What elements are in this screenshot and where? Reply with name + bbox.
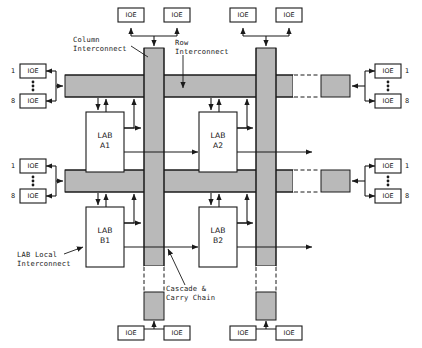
ioe-label-bottom-right-1: IOE <box>230 330 256 336</box>
channel-index-right-upper-first: 1 <box>405 68 409 75</box>
ioe-label-bottom-right-2: IOE <box>276 330 302 336</box>
lab-b1-label-line1: LAB <box>86 226 124 235</box>
ioe-label-top-right-2: IOE <box>276 12 302 18</box>
top-left-ioe-wiring <box>131 28 177 46</box>
right-upper-ioe-wiring <box>352 71 375 101</box>
lab-a2-label-line2: A2 <box>199 141 237 150</box>
column-interconnect-left <box>144 48 164 320</box>
lab-a2-label-line1: LAB <box>199 131 237 140</box>
lab-a1-label-line1: LAB <box>86 131 124 140</box>
row-interconnect-top <box>65 75 350 97</box>
annotation-lab-local-interconnect-line2: Interconnect <box>17 260 71 269</box>
ioe-label-right-upper-1: IOE <box>375 68 401 74</box>
ioe-label-bottom-left-2: IOE <box>164 330 190 336</box>
channel-index-left-lower-last: 8 <box>11 193 15 200</box>
lab-b1-label-line2: B1 <box>86 236 124 245</box>
top-right-ioe-wiring <box>243 28 289 46</box>
annotation-row-interconnect-line2: Interconnect <box>175 48 229 57</box>
row-interconnect-bottom <box>65 170 350 192</box>
annotation-cascade-carry-chain-line2: Carry Chain <box>166 294 215 303</box>
ellipsis-right-upper <box>387 81 390 92</box>
ioe-label-right-lower-8: IOE <box>375 193 401 199</box>
lab-b2-label-line1: LAB <box>199 226 237 235</box>
channel-index-left-upper-first: 1 <box>11 68 15 75</box>
leader-cascade-carry-chain <box>168 249 185 285</box>
fpga-interconnect-diagram: IOE IOE IOE IOE IOE IOE IOE IOE IOE IOE … <box>0 0 422 348</box>
ioe-label-left-lower-1: IOE <box>20 163 46 169</box>
ioe-label-left-upper-8: IOE <box>20 98 46 104</box>
left-lower-ioe-wiring <box>46 166 63 196</box>
right-lower-ioe-wiring <box>352 166 375 196</box>
column-interconnect-right <box>256 48 276 320</box>
ioe-label-top-left-1: IOE <box>118 12 144 18</box>
lab-b2-label-line2: B2 <box>199 236 237 245</box>
ioe-label-top-left-2: IOE <box>164 12 190 18</box>
annotation-column-interconnect-line2: Interconnect <box>73 45 127 54</box>
ellipsis-right-lower <box>387 176 390 187</box>
channel-index-left-lower-first: 1 <box>11 163 15 170</box>
channel-index-right-upper-last: 8 <box>405 98 409 105</box>
leader-lab-local-interconnect <box>64 247 83 254</box>
channel-index-right-lower-first: 1 <box>405 163 409 170</box>
ioe-label-bottom-left-1: IOE <box>118 330 144 336</box>
ellipsis-left-upper <box>32 81 35 92</box>
ioe-label-left-upper-1: IOE <box>20 68 46 74</box>
ioe-label-right-upper-8: IOE <box>375 98 401 104</box>
lab-a1-label-line2: A1 <box>86 141 124 150</box>
ioe-label-right-lower-1: IOE <box>375 163 401 169</box>
ioe-label-left-lower-8: IOE <box>20 193 46 199</box>
channel-index-right-lower-last: 8 <box>405 193 409 200</box>
left-upper-ioe-wiring <box>46 71 63 101</box>
ellipsis-left-lower <box>32 176 35 187</box>
channel-index-left-upper-last: 8 <box>11 98 15 105</box>
ioe-label-top-right-1: IOE <box>230 12 256 18</box>
